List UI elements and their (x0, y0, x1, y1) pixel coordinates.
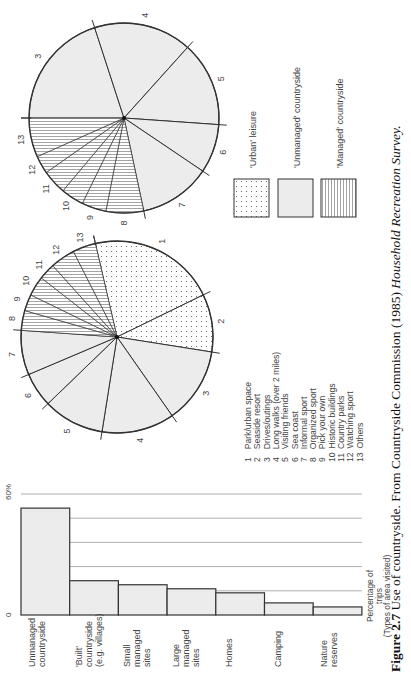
category-legend: 'Urban' leisure'Unmanaged' countryside'M… (234, 67, 356, 217)
caption-label: Figure 2.7 (388, 614, 403, 672)
pie-chart-countryside: 345678910111213 (16, 13, 228, 226)
bar-category-label: reserves (329, 632, 339, 667)
pie-slice-label: 7 (177, 203, 187, 208)
pie-slice-label: 13 (16, 135, 26, 145)
bar-category-label: 'Built' (74, 646, 84, 667)
bar (118, 585, 167, 615)
bar (313, 607, 362, 615)
pie-slice-label: 10 (21, 276, 31, 286)
bar-category-label: managed (132, 629, 142, 667)
bar (70, 581, 119, 615)
pie-slice-label: 8 (7, 316, 17, 321)
bar-category-label: countryside (84, 621, 94, 667)
figure-2-7: 345678910111213 12345678910111213 'Urban… (0, 0, 411, 677)
pie-center (115, 335, 119, 339)
bar-category-label: managed (181, 629, 191, 667)
pie-tick (13, 330, 23, 331)
bar (167, 589, 216, 615)
pie-slice-label: 7 (7, 352, 17, 357)
caption-source: Household Recreation Survey. (388, 125, 403, 289)
pie-slice-label: 12 (27, 165, 37, 175)
bar-category-label: Large (171, 644, 181, 667)
bar-category-label: sites (142, 648, 152, 667)
pie-slice-label: 10 (61, 201, 71, 211)
pie-slice-label: 3 (33, 54, 43, 59)
pie-chart-all-trips: 12345678910111213 (7, 232, 226, 442)
bar-category-label: Camping (273, 631, 283, 667)
pie-slice-label: 6 (218, 150, 228, 155)
pie-legend-text: Others (355, 423, 365, 449)
figure-caption: Figure 2.7 Use of countryside. From Coun… (388, 125, 403, 672)
bar-category-label: (e.g. villages) (94, 613, 104, 667)
bar-category-label: Nature (319, 640, 329, 667)
bar-category-label: Small (122, 644, 132, 667)
bar (21, 508, 70, 615)
bar-category-label: Homes (224, 638, 234, 667)
legend-label-unmanaged: 'Unmanaged' countryside (292, 67, 302, 168)
pie-slice-label: 11 (41, 184, 51, 193)
pie-slice-label: 4 (140, 13, 150, 18)
pie-tick (217, 124, 227, 125)
pie-slice-label: 4 (135, 438, 145, 443)
pie-slice-label: 2 (216, 319, 226, 324)
pie-slice-label: 13 (75, 232, 85, 242)
bar-category-label: Unmanaged (27, 618, 37, 667)
pie-slice-label: 5 (62, 429, 72, 434)
pie-legend-number: 13 (355, 452, 365, 462)
legend-label-managed: 'Managed' countryside (335, 79, 345, 169)
caption-text: Use of countryside. From Countryside Com… (388, 289, 403, 614)
pie-slice-label: 6 (23, 393, 33, 398)
bar-chart: Unmanagedcountryside'Built'countryside(e… (4, 484, 392, 667)
pie-tick (42, 402, 49, 409)
pie-center (122, 116, 126, 120)
legend-swatch-urban (234, 179, 269, 217)
pie-slice-label: 3 (201, 391, 211, 396)
y-tick-0: 0 (4, 612, 13, 617)
y-tick-60: 60% (4, 484, 13, 500)
pie-slice-label: 9 (85, 215, 95, 220)
pie-slice-label: 9 (12, 297, 22, 302)
pie-slice-label: 11 (34, 260, 44, 269)
legend-label-urban: 'Urban' leisure (248, 111, 258, 168)
pie-tick (186, 41, 193, 48)
pie-legend-item: 13Others (355, 423, 365, 462)
bar-category-label: countryside (37, 621, 47, 667)
pie-slice-label: 1 (157, 239, 167, 244)
bar-category-label: sites (191, 648, 201, 667)
bar (216, 593, 265, 615)
pie-slice-label: 8 (119, 220, 129, 225)
legend-swatch-managed (321, 179, 356, 217)
pie-slice-label: 12 (51, 245, 61, 255)
pie-slice-label: 5 (216, 76, 226, 81)
legend-swatch-unmanaged (278, 179, 313, 217)
bar (265, 603, 314, 615)
pie-number-legend: 1Park/urban space2Seaside resort3Drives/… (243, 352, 365, 462)
